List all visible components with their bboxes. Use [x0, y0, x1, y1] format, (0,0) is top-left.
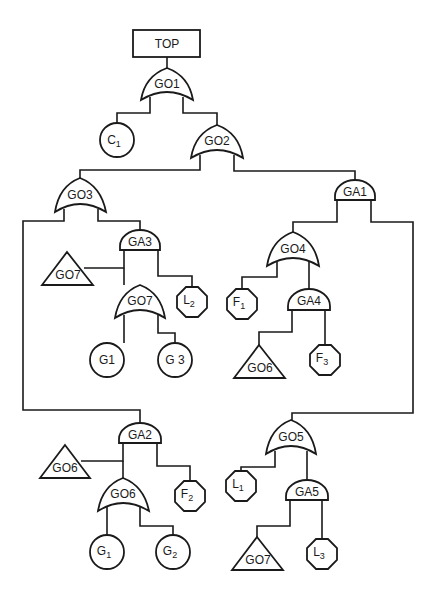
- or-gate-g04: GO4: [267, 232, 319, 266]
- or-gate-g06: GO6: [98, 478, 149, 511]
- and-gate-ga1: GA1: [335, 180, 375, 200]
- event-octagon-f2: F2: [175, 481, 205, 511]
- svg-text:GO2: GO2: [204, 134, 230, 148]
- basic-event-g1-lower: G1: [90, 535, 124, 569]
- top-event-label: TOP: [155, 37, 179, 51]
- event-octagon-l3: L3: [307, 539, 337, 569]
- svg-text:GO7: GO7: [127, 294, 153, 308]
- svg-text:GO6: GO6: [52, 461, 78, 475]
- svg-text:GO6: GO6: [247, 361, 273, 375]
- and-gate-ga3: GA3: [120, 230, 160, 250]
- basic-event-g2: G2: [156, 535, 190, 569]
- event-octagon-l2: L2: [177, 287, 207, 317]
- transfer-triangle-g06-right: GO6: [234, 345, 285, 378]
- basic-event-g1-upper: G1: [90, 343, 124, 377]
- svg-text:GA4: GA4: [297, 294, 321, 308]
- svg-text:GO7: GO7: [55, 268, 81, 282]
- and-gate-ga5: GA5: [286, 480, 328, 500]
- svg-text:GO7: GO7: [245, 553, 271, 567]
- basic-event-c1: C1: [100, 123, 134, 157]
- fault-tree-diagram: TOP GO1 GO2 GO3 GO7 GO4 GO6 GO5 GA1 GA3: [0, 0, 438, 591]
- svg-text:GO6: GO6: [110, 487, 136, 501]
- svg-text:GO5: GO5: [278, 430, 304, 444]
- svg-text:GO1: GO1: [154, 77, 180, 91]
- svg-text:GO4: GO4: [280, 242, 306, 256]
- svg-text:GA3: GA3: [128, 235, 152, 249]
- or-gate-g01: GO1: [141, 68, 193, 100]
- svg-text:GA5: GA5: [295, 485, 319, 499]
- event-octagon-f1: F1: [227, 289, 257, 319]
- top-event-box: TOP: [133, 30, 200, 57]
- and-gate-ga4: GA4: [288, 289, 330, 310]
- transfer-triangle-g07-lower: GO7: [232, 537, 283, 570]
- svg-text:G1: G1: [99, 353, 115, 367]
- event-octagon-f3: F3: [310, 345, 340, 375]
- basic-event-g3: G 3: [158, 343, 192, 377]
- svg-text:G 3: G 3: [165, 353, 185, 367]
- svg-text:GA2: GA2: [128, 428, 152, 442]
- or-gate-g05: GO5: [266, 420, 316, 454]
- or-gate-g03: GO3: [55, 178, 106, 212]
- or-gate-g07: GO7: [115, 285, 165, 318]
- or-gate-g02: GO2: [191, 125, 243, 158]
- and-gate-ga2: GA2: [119, 423, 161, 443]
- svg-text:GO3: GO3: [67, 188, 93, 202]
- event-octagon-l1: L1: [226, 471, 256, 501]
- svg-text:GA1: GA1: [343, 185, 367, 199]
